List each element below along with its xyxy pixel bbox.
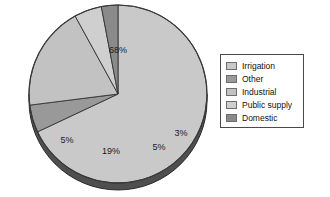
legend-label-other: Other — [242, 74, 263, 84]
legend-item-industrial[interactable]: Industrial — [226, 85, 303, 98]
slice-label-domestic: 3% — [174, 128, 187, 138]
slice-label-industrial: 19% — [102, 146, 120, 156]
slice-label-public-supply: 5% — [152, 142, 165, 152]
pie-chart-figure: 68% 5% 19% 5% 3% Irrigation Other Indust… — [0, 0, 330, 197]
legend-swatch-icon-domestic — [226, 114, 237, 122]
legend-item-domestic[interactable]: Domestic — [226, 111, 303, 124]
legend-label-domestic: Domestic — [242, 113, 277, 123]
legend-swatch-icon-irrigation — [226, 62, 237, 70]
legend-label-industrial: Industrial — [242, 87, 277, 97]
legend-item-other[interactable]: Other — [226, 72, 303, 85]
legend-label-public-supply: Public supply — [242, 100, 292, 110]
legend-swatch-icon-public-supply — [226, 101, 237, 109]
legend-label-irrigation: Irrigation — [242, 61, 275, 71]
slice-label-irrigation: 68% — [109, 45, 127, 55]
chart-legend: Irrigation Other Industrial Public suppl… — [220, 54, 304, 128]
legend-item-public-supply[interactable]: Public supply — [226, 98, 303, 111]
slice-label-other: 5% — [60, 135, 73, 145]
legend-swatch-icon-other — [226, 75, 237, 83]
legend-item-irrigation[interactable]: Irrigation — [226, 59, 303, 72]
legend-swatch-icon-industrial — [226, 88, 237, 96]
